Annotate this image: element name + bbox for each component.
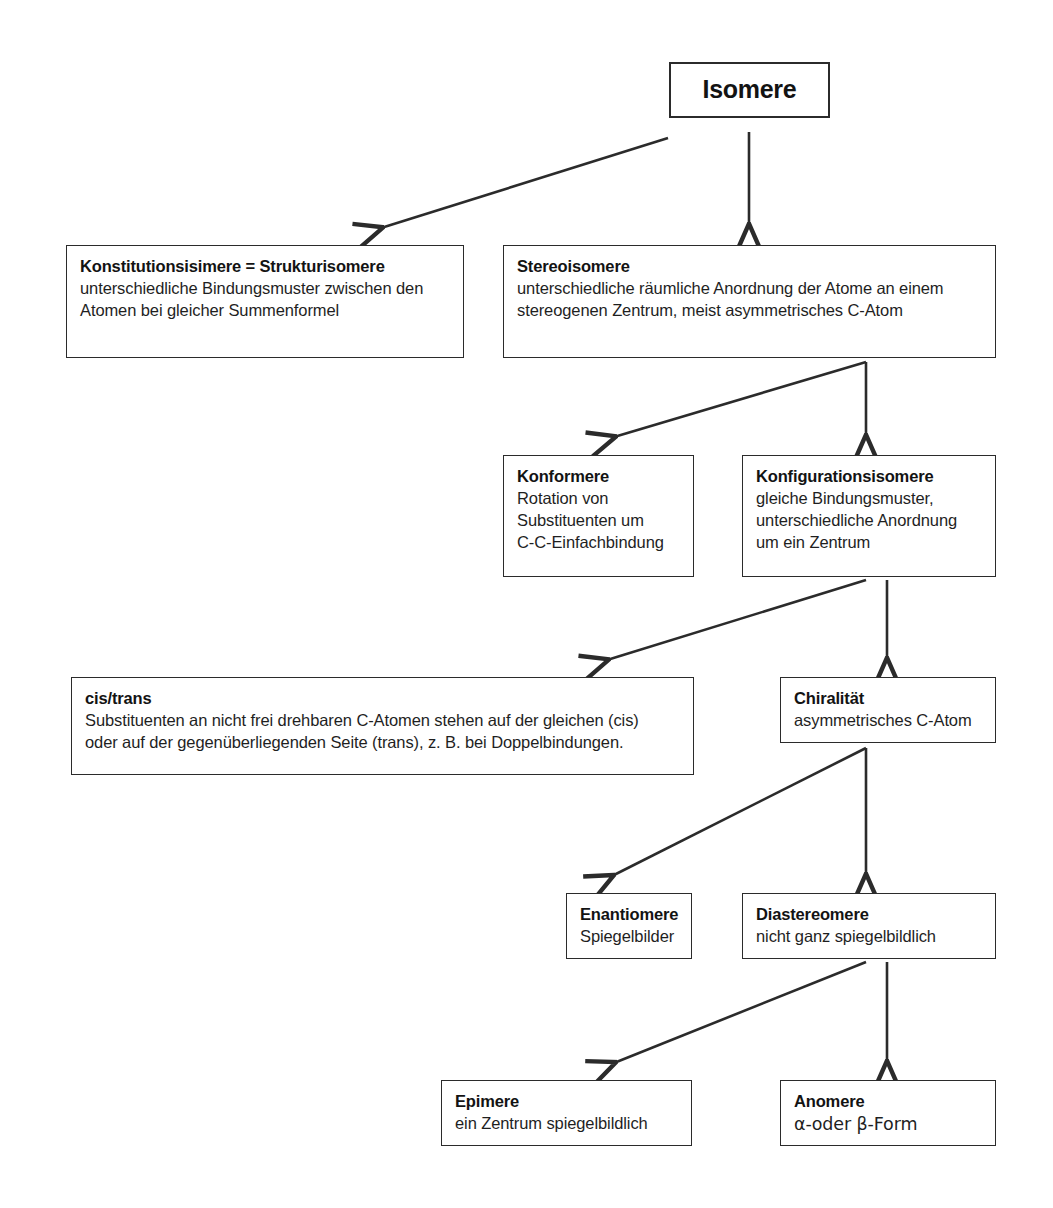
node-anomere-desc: α-oder β-Form — [794, 1113, 982, 1136]
node-epimere-title: Epimere — [455, 1091, 678, 1113]
node-stereoisomere[interactable]: Stereoisomere unterschiedliche räumliche… — [503, 245, 996, 358]
desc-line: um ein Zentrum — [756, 532, 982, 554]
desc-line: unterschiedliche räumliche Anordnung der… — [517, 278, 982, 300]
node-chiralitaet[interactable]: Chiralität asymmetrisches C-Atom — [780, 677, 996, 743]
desc-line: C-C-Einfachbindung — [517, 532, 680, 554]
node-isomere-title: Isomere — [703, 73, 797, 106]
desc-line: Substituenten um — [517, 510, 680, 532]
desc-line: asymmetrisches C-Atom — [794, 710, 982, 732]
node-diastereomere[interactable]: Diastereomere nicht ganz spiegelbildlich — [742, 893, 996, 959]
desc-line: Spiegelbilder — [580, 926, 678, 948]
node-cis-trans-desc: Substituenten an nicht frei drehbaren C-… — [85, 710, 680, 754]
node-konformere-title: Konformere — [517, 466, 680, 488]
node-konformere[interactable]: Konformere Rotation von Substituenten um… — [503, 455, 694, 577]
node-konfigurationsisomere-desc: gleiche Bindungsmuster, unterschiedliche… — [756, 488, 982, 554]
node-cis-trans-title: cis/trans — [85, 688, 680, 710]
desc-line: α-oder β-Form — [794, 1113, 982, 1136]
node-enantiomere-desc: Spiegelbilder — [580, 926, 678, 948]
node-anomere[interactable]: Anomere α-oder β-Form — [780, 1080, 996, 1146]
node-stereoisomere-title: Stereoisomere — [517, 256, 982, 278]
node-diastereomere-title: Diastereomere — [756, 904, 982, 926]
desc-line: stereogenen Zentrum, meist asymmetrische… — [517, 300, 982, 322]
desc-line: nicht ganz spiegelbildlich — [756, 926, 982, 948]
desc-line: oder auf der gegenüberliegenden Seite (t… — [85, 732, 680, 754]
desc-line: Atomen bei gleicher Summenformel — [80, 300, 450, 322]
arrow-layer — [0, 0, 1053, 1208]
node-chiralitaet-title: Chiralität — [794, 688, 982, 710]
node-enantiomere-title: Enantiomere — [580, 904, 678, 926]
isomere-classification-diagram: Isomere Konstitutionsisimere = Strukturi… — [0, 0, 1053, 1208]
node-konformere-desc: Rotation von Substituenten um C-C-Einfac… — [517, 488, 680, 554]
node-chiralitaet-desc: asymmetrisches C-Atom — [794, 710, 982, 732]
edge-isomere-to-konstitutionsisomere — [381, 138, 668, 228]
node-isomere[interactable]: Isomere — [669, 62, 830, 118]
node-cis-trans[interactable]: cis/trans Substituenten an nicht frei dr… — [71, 677, 694, 775]
desc-line: Rotation von — [517, 488, 680, 510]
node-diastereomere-desc: nicht ganz spiegelbildlich — [756, 926, 982, 948]
edge-diastereomere-to-epimere — [614, 962, 866, 1063]
node-stereoisomere-desc: unterschiedliche räumliche Anordnung der… — [517, 278, 982, 322]
node-konfigurationsisomere[interactable]: Konfigurationsisomere gleiche Bindungsmu… — [742, 455, 996, 577]
desc-line: unterschiedliche Anordnung — [756, 510, 982, 532]
node-konfigurationsisomere-title: Konfigurationsisomere — [756, 466, 982, 488]
desc-line: unterschiedliche Bindungsmuster zwischen… — [80, 278, 450, 300]
node-anomere-title: Anomere — [794, 1091, 982, 1113]
desc-line: ein Zentrum spiegelbildlich — [455, 1113, 678, 1135]
node-konstitutionsisomere-title: Konstitutionsisimere = Strukturisomere — [80, 256, 450, 278]
node-konstitutionsisomere[interactable]: Konstitutionsisimere = Strukturisomere u… — [66, 245, 464, 358]
desc-line: Substituenten an nicht frei drehbaren C-… — [85, 710, 680, 732]
edge-stereoisomere-to-konformere — [614, 362, 866, 437]
edge-konfigurationsisomere-to-cis-trans — [607, 580, 866, 660]
node-epimere[interactable]: Epimere ein Zentrum spiegelbildlich — [441, 1080, 692, 1146]
node-enantiomere[interactable]: Enantiomere Spiegelbilder — [566, 893, 692, 959]
node-konstitutionsisomere-desc: unterschiedliche Bindungsmuster zwischen… — [80, 278, 450, 322]
desc-line: gleiche Bindungsmuster, — [756, 488, 982, 510]
node-epimere-desc: ein Zentrum spiegelbildlich — [455, 1113, 678, 1135]
